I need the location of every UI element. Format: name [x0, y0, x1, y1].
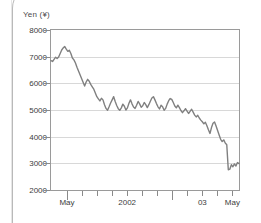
- x-axis-tick-label: May: [225, 198, 240, 207]
- y-axis-tick-mark: [44, 83, 50, 84]
- y-axis-tick-mark: [44, 190, 50, 191]
- x-axis-tick-mark: [232, 191, 233, 196]
- x-axis-tick-mark: [112, 191, 113, 196]
- price-line-series: [51, 30, 239, 190]
- x-axis-tick-mark: [202, 191, 203, 196]
- x-axis-tick-mark: [127, 191, 128, 196]
- x-axis-tick-mark: [187, 191, 188, 196]
- x-axis-tick-label: May: [59, 198, 74, 207]
- y-axis-tick-mark: [44, 30, 50, 31]
- x-axis-tick-mark: [172, 191, 173, 200]
- x-axis-tick-mark: [142, 191, 143, 196]
- x-axis-tick-label: 03: [198, 198, 207, 207]
- y-axis-tick-mark: [44, 163, 50, 164]
- plot-area: [50, 29, 240, 191]
- x-axis-tick-mark: [217, 191, 218, 196]
- y-axis-tick-mark: [44, 57, 50, 58]
- x-axis-tick-mark: [82, 191, 83, 196]
- y-axis-tick-mark: [44, 110, 50, 111]
- x-axis-tick-mark: [97, 191, 98, 196]
- y-axis-tick-mark: [44, 137, 50, 138]
- x-axis-tick-label: 2002: [118, 198, 136, 207]
- yen-line-chart: Yen (¥) 8000700060005000400030002000 May…: [0, 0, 261, 223]
- y-axis-title: Yen (¥): [23, 10, 50, 19]
- screenshot-root: Yen (¥) 8000700060005000400030002000 May…: [0, 0, 261, 223]
- x-axis-tick-mark: [157, 191, 158, 196]
